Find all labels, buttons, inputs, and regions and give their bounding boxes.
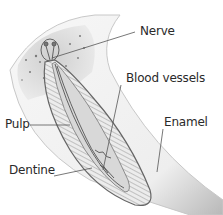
label-enamel: Enamel xyxy=(164,116,208,128)
label-blood-vessels: Blood vessels xyxy=(126,72,205,84)
label-nerve: Nerve xyxy=(140,25,175,37)
tooth-illustration xyxy=(0,0,223,215)
label-dentine: Dentine xyxy=(9,164,55,176)
label-pulp: Pulp xyxy=(5,118,30,130)
tooth-diagram: Nerve Blood vessels Pulp Enamel Dentine xyxy=(0,0,223,215)
